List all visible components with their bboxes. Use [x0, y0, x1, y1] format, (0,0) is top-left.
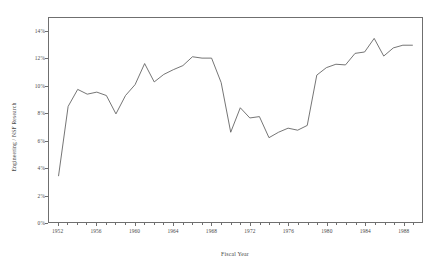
x-tick-mark — [298, 223, 299, 225]
y-tick-label: 12% — [35, 55, 45, 61]
x-tick-mark — [96, 223, 97, 226]
x-tick-label: 1968 — [206, 228, 217, 234]
y-tick-label: 4% — [38, 165, 45, 171]
x-tick-mark — [163, 223, 164, 225]
x-tick-mark — [77, 223, 78, 225]
x-tick-mark — [231, 223, 232, 225]
series-line-engineering-nsf-research — [59, 38, 413, 175]
x-tick-mark — [269, 223, 270, 225]
x-tick-mark — [240, 223, 241, 225]
x-tick-mark — [394, 223, 395, 225]
x-tick-mark — [375, 223, 376, 225]
x-tick-mark — [125, 223, 126, 225]
x-tick-mark — [106, 223, 107, 225]
x-tick-mark — [308, 223, 309, 225]
x-tick-mark — [144, 223, 145, 225]
y-tick-label: 10% — [35, 83, 45, 89]
x-tick-label: 1988 — [398, 228, 409, 234]
data-line-svg — [49, 18, 422, 222]
x-tick-label: 1960 — [129, 228, 140, 234]
x-tick-mark — [288, 223, 289, 226]
y-tick-label: 2% — [38, 193, 45, 199]
x-tick-mark — [154, 223, 155, 225]
y-axis-title: Engineering / NSF Research — [11, 102, 17, 171]
x-tick-mark — [346, 223, 347, 225]
x-tick-mark — [336, 223, 337, 225]
x-tick-mark — [192, 223, 193, 225]
x-tick-label: 1972 — [244, 228, 255, 234]
x-tick-mark — [327, 223, 328, 226]
x-tick-label: 1976 — [283, 228, 294, 234]
x-tick-mark — [356, 223, 357, 225]
x-tick-mark — [211, 223, 212, 226]
chart-figure: Engineering / NSF Research 0%2%4%6%8%10%… — [0, 0, 447, 273]
x-tick-mark — [173, 223, 174, 226]
x-tick-mark — [250, 223, 251, 226]
plot-area — [48, 17, 423, 223]
x-tick-mark — [183, 223, 184, 225]
x-tick-mark — [115, 223, 116, 225]
x-tick-label: 1952 — [52, 228, 63, 234]
x-tick-mark — [365, 223, 366, 226]
x-tick-mark — [135, 223, 136, 226]
y-tick-label: 8% — [38, 110, 45, 116]
x-tick-mark — [260, 223, 261, 225]
x-tick-label: 1980 — [321, 228, 332, 234]
x-tick-mark — [279, 223, 280, 225]
x-tick-mark — [317, 223, 318, 225]
x-tick-mark — [58, 223, 59, 226]
x-tick-mark — [404, 223, 405, 226]
x-tick-mark — [202, 223, 203, 225]
x-axis: Fiscal Year 1952195619601964196819721976… — [0, 223, 447, 273]
y-tick-label: 6% — [38, 138, 45, 144]
x-tick-label: 1984 — [360, 228, 371, 234]
x-tick-label: 1964 — [167, 228, 178, 234]
x-tick-label: 1956 — [90, 228, 101, 234]
x-tick-mark — [86, 223, 87, 225]
x-tick-mark — [385, 223, 386, 225]
x-tick-mark — [67, 223, 68, 225]
x-tick-mark — [221, 223, 222, 225]
x-tick-mark — [413, 223, 414, 225]
y-tick-label: 14% — [35, 28, 45, 34]
x-axis-title: Fiscal Year — [221, 251, 249, 257]
